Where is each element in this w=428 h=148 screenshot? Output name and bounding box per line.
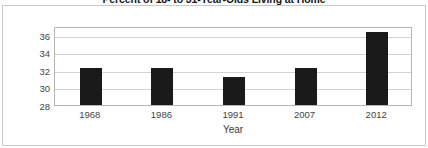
x-tick-label: 2012 — [346, 109, 406, 120]
gridline — [55, 54, 411, 55]
gridline — [55, 37, 411, 38]
gridline — [55, 72, 411, 73]
bar[interactable] — [151, 68, 173, 105]
bar[interactable] — [80, 68, 102, 105]
x-tick-label: 1986 — [131, 109, 191, 120]
plot-area — [54, 27, 412, 106]
y-tick-label: 36 — [10, 30, 50, 41]
bar[interactable] — [223, 77, 245, 105]
x-tick-label: 2007 — [275, 109, 335, 120]
chart-title: Percent of 18- to 31-Year-Olds Living at… — [0, 0, 428, 5]
y-tick-label: 28 — [10, 101, 50, 112]
x-tick-label: 1968 — [60, 109, 120, 120]
bar[interactable] — [366, 32, 388, 105]
plot-inner — [55, 28, 411, 105]
y-tick-label: 30 — [10, 83, 50, 94]
y-axis-title: Percent — [0, 20, 1, 80]
bar-chart-figure: Percent of 18- to 31-Year-Olds Living at… — [0, 0, 428, 148]
x-axis-title: Year — [54, 124, 412, 135]
x-tick-label: 1991 — [203, 109, 263, 120]
bar[interactable] — [295, 68, 317, 105]
y-tick-label: 34 — [10, 48, 50, 59]
y-tick-label: 32 — [10, 65, 50, 76]
